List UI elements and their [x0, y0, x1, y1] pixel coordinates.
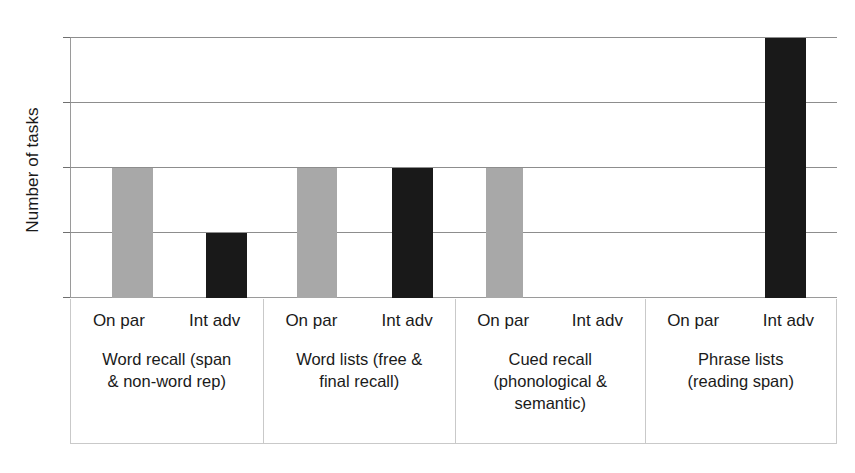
group4-name-line2: (reading span): [650, 371, 833, 393]
sublabel-group4-int-adv: Int adv: [741, 311, 836, 331]
sublabel-group4-on-par: On par: [646, 311, 741, 331]
bar-group2-on-par: [297, 168, 337, 298]
group1-name-line1: Word recall (span: [75, 349, 259, 371]
plot-area: [70, 37, 837, 298]
group1-name-line2: & non-word rep): [75, 371, 259, 393]
group-cell-word-lists: On par Int adv Word lists (free & final …: [264, 299, 457, 443]
group3-sublabel-row: On par Int adv: [456, 299, 645, 343]
group4-name-line1: Phrase lists: [650, 349, 833, 371]
group-name-word-lists: Word lists (free & final recall): [264, 343, 456, 443]
group-name-phrase-lists: Phrase lists (reading span): [646, 343, 837, 443]
y-axis-title: Number of tasks: [23, 45, 43, 295]
bar-group2-int-adv: [392, 168, 433, 298]
group4-sublabel-row: On par Int adv: [646, 299, 837, 343]
group1-sublabel-row: On par Int adv: [71, 299, 263, 343]
sublabel-group2-on-par: On par: [264, 311, 360, 331]
category-label-table: On par Int adv Word recall (span & non-w…: [70, 299, 837, 444]
bar-group4-int-adv: [765, 38, 806, 298]
group-cell-word-recall: On par Int adv Word recall (span & non-w…: [71, 299, 264, 443]
group3-name-line3: semantic): [460, 393, 641, 415]
group-cell-cued-recall: On par Int adv Cued recall (phonological…: [456, 299, 646, 443]
group2-sublabel-row: On par Int adv: [264, 299, 456, 343]
tick-mark-3: [63, 102, 70, 103]
group-name-cued-recall: Cued recall (phonological & semantic): [456, 343, 645, 443]
sublabel-group3-on-par: On par: [456, 311, 550, 331]
bar-group1-int-adv: [206, 233, 247, 298]
bar-group3-on-par: [486, 168, 523, 298]
gridline-3: [70, 102, 837, 103]
tick-mark-1: [63, 232, 70, 233]
group-name-word-recall: Word recall (span & non-word rep): [71, 343, 263, 443]
sublabel-group1-on-par: On par: [71, 311, 167, 331]
group2-name-line1: Word lists (free &: [268, 349, 452, 371]
group2-name-line2: final recall): [268, 371, 452, 393]
sublabel-group2-int-adv: Int adv: [359, 311, 455, 331]
tick-mark-4: [63, 37, 70, 38]
tick-mark-2: [63, 167, 70, 168]
group3-name-line2: (phonological &: [460, 371, 641, 393]
group-cell-phrase-lists: On par Int adv Phrase lists (reading spa…: [646, 299, 837, 443]
bar-chart: Number of tasks 4 3 2 1 0 On par Int adv: [0, 0, 855, 473]
tick-mark-0: [63, 297, 70, 298]
sublabel-group3-int-adv: Int adv: [550, 311, 644, 331]
group3-name-line1: Cued recall: [460, 349, 641, 371]
gridline-2: [70, 167, 837, 168]
gridline-0-baseline: [70, 297, 837, 298]
bar-group1-on-par: [112, 168, 153, 298]
gridline-1: [70, 232, 837, 233]
sublabel-group1-int-adv: Int adv: [167, 311, 263, 331]
gridline-4: [70, 37, 837, 38]
